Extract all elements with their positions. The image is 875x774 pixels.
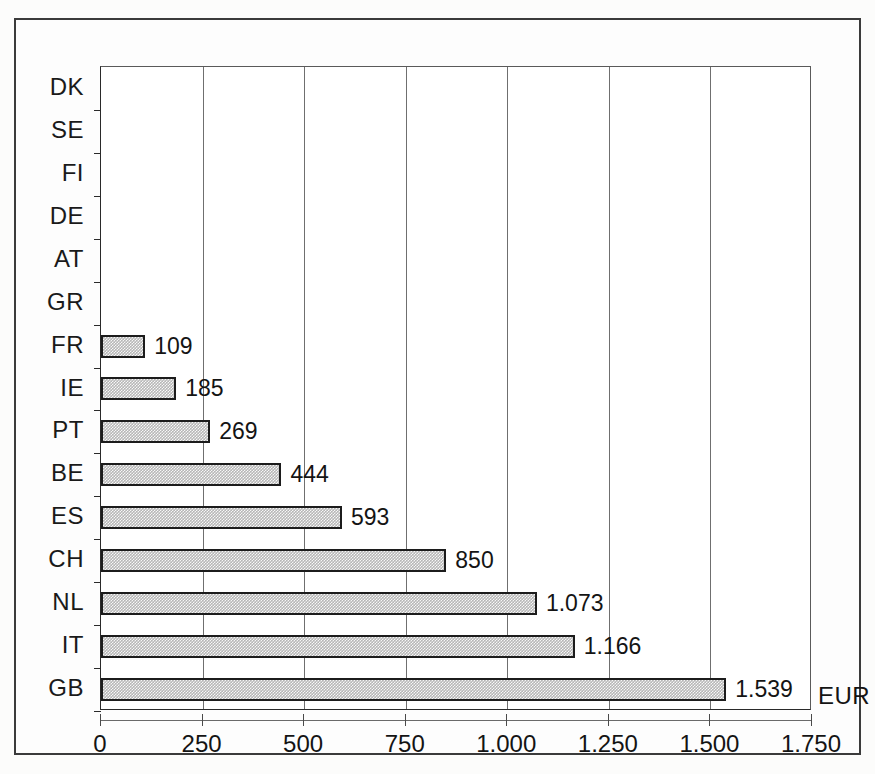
y-axis-tick — [94, 711, 101, 712]
x-axis-tick — [303, 714, 304, 726]
bar — [101, 635, 575, 658]
bar-value-label: 1.166 — [584, 634, 642, 659]
y-axis-tick — [94, 453, 101, 454]
category-row — [101, 239, 810, 282]
category-row — [101, 67, 810, 110]
x-axis-line — [100, 720, 812, 721]
category-row — [101, 153, 810, 196]
x-axis-tick-label: 250 — [182, 730, 222, 758]
y-axis-tick — [94, 625, 101, 626]
category-row: 593 — [101, 496, 810, 539]
axis-unit-label: EUR — [818, 682, 870, 710]
y-axis-tick-label: NL — [52, 581, 84, 624]
y-axis-tick — [94, 582, 101, 583]
category-row: 1.166 — [101, 625, 810, 668]
bar-value-label: 444 — [290, 462, 328, 487]
x-axis-tick-label: 1.000 — [476, 730, 536, 758]
bar — [101, 549, 446, 572]
y-axis-tick — [94, 496, 101, 497]
x-axis-tick-label: 1.500 — [679, 730, 739, 758]
category-row: 109 — [101, 325, 810, 368]
page-background: DKSEFIDEATGRFRIEPTBEESCHNLITGB 109185269… — [0, 0, 875, 774]
bar-value-label: 1.539 — [735, 677, 793, 702]
bar — [101, 592, 537, 615]
bar-value-label: 109 — [154, 334, 192, 359]
category-row — [101, 196, 810, 239]
bar-value-label: 1.073 — [546, 591, 604, 616]
y-axis-tick — [94, 282, 101, 283]
category-row: 1.073 — [101, 582, 810, 625]
y-axis-tick-label: FI — [62, 152, 84, 195]
x-axis-tick-label: 1.250 — [578, 730, 638, 758]
x-axis-tick — [100, 714, 101, 726]
x-axis-tick — [202, 714, 203, 726]
bar — [101, 506, 342, 529]
bar-value-label: 593 — [351, 505, 389, 530]
y-axis-tick — [94, 196, 101, 197]
y-axis-tick — [94, 668, 101, 669]
category-row: 1.539 — [101, 668, 810, 711]
x-axis-tick — [608, 714, 609, 726]
x-axis-tick-label: 750 — [385, 730, 425, 758]
x-axis-tick — [506, 714, 507, 726]
category-row: 850 — [101, 539, 810, 582]
y-axis-tick — [94, 110, 101, 111]
plot-area: 1091852694445938501.0731.1661.539 — [100, 66, 811, 710]
bar — [101, 678, 726, 701]
y-axis-tick-label: FR — [51, 324, 84, 367]
y-axis-tick-label: IE — [60, 367, 84, 410]
x-axis-tick — [811, 714, 812, 726]
y-axis-tick-label: ES — [51, 495, 84, 538]
y-axis-tick-label: GB — [48, 667, 84, 710]
bar-value-label: 850 — [455, 548, 493, 573]
y-axis-tick-label: AT — [54, 238, 84, 281]
bar — [101, 335, 145, 358]
y-axis-tick — [94, 153, 101, 154]
y-axis-tick — [94, 539, 101, 540]
category-row: 444 — [101, 453, 810, 496]
x-axis-tick-label: 1.750 — [781, 730, 841, 758]
y-axis-tick-label: CH — [48, 538, 84, 581]
y-axis-tick-label: BE — [51, 452, 84, 495]
y-axis-tick-label: PT — [52, 409, 84, 452]
y-axis-tick — [94, 368, 101, 369]
bar — [101, 463, 281, 486]
y-axis-tick — [94, 239, 101, 240]
y-axis-tick — [94, 325, 101, 326]
y-axis-tick — [94, 410, 101, 411]
x-axis-tick — [405, 714, 406, 726]
x-axis-tick — [709, 714, 710, 726]
y-axis-tick-label: DK — [50, 66, 84, 109]
y-axis-tick-label: IT — [62, 624, 84, 667]
y-axis-tick-label: DE — [50, 195, 84, 238]
category-row: 269 — [101, 410, 810, 453]
category-row — [101, 282, 810, 325]
bar — [101, 420, 210, 443]
category-row — [101, 110, 810, 153]
bar — [101, 377, 176, 400]
figure-frame: DKSEFIDEATGRFRIEPTBEESCHNLITGB 109185269… — [14, 18, 861, 755]
y-axis-labels: DKSEFIDEATGRFRIEPTBEESCHNLITGB — [16, 66, 90, 710]
x-axis-tick-label: 0 — [93, 730, 106, 758]
y-axis-tick-label: SE — [51, 109, 84, 152]
bar-value-label: 269 — [219, 419, 257, 444]
x-axis-tick-label: 500 — [283, 730, 323, 758]
y-axis-tick-label: GR — [47, 281, 84, 324]
category-row: 185 — [101, 368, 810, 411]
bar-value-label: 185 — [185, 376, 223, 401]
